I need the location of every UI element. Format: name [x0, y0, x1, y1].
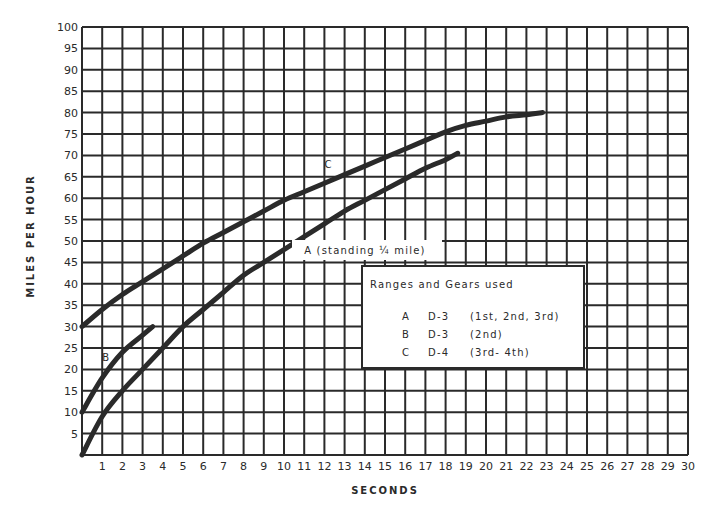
- x-tick-label: 1: [99, 460, 106, 473]
- y-tick-label: 55: [64, 214, 78, 227]
- legend-title: Ranges and Gears used: [370, 279, 514, 290]
- x-tick-label: 17: [418, 460, 432, 473]
- x-tick-label: 27: [620, 460, 634, 473]
- y-tick-label: 25: [64, 342, 78, 355]
- y-tick-label: 100: [57, 21, 78, 34]
- x-tick-label: 29: [661, 460, 675, 473]
- y-tick-label: 20: [64, 363, 78, 376]
- y-tick-label: 85: [64, 85, 78, 98]
- x-tick-label: 15: [378, 460, 392, 473]
- acceleration-chart: 5101520253035404550556065707580859095100…: [0, 0, 724, 520]
- x-tick-label: 14: [358, 460, 372, 473]
- x-tick-label: 18: [439, 460, 453, 473]
- curve-label: A (standing ¼ mile): [304, 245, 426, 256]
- legend-entry-gears: (2nd): [470, 329, 503, 340]
- x-tick-label: 3: [139, 460, 146, 473]
- y-tick-label: 10: [64, 406, 78, 419]
- x-tick-label: 11: [297, 460, 311, 473]
- x-tick-label: 2: [119, 460, 126, 473]
- x-tick-label: 7: [220, 460, 227, 473]
- curve-label: B: [102, 352, 110, 363]
- y-axis-ticks: 5101520253035404550556065707580859095100: [57, 21, 78, 441]
- y-tick-label: 5: [71, 428, 78, 441]
- legend-entry-range: D-3: [428, 329, 449, 340]
- x-tick-label: 9: [260, 460, 267, 473]
- x-tick-label: 20: [479, 460, 493, 473]
- legend: Ranges and Gears usedAD-3(1st, 2nd, 3rd)…: [362, 266, 584, 368]
- x-tick-label: 10: [277, 460, 291, 473]
- y-tick-label: 60: [64, 192, 78, 205]
- legend-entry-range: D-4: [428, 347, 449, 358]
- y-axis-title: MILES PER HOUR: [25, 174, 36, 298]
- y-tick-label: 65: [64, 171, 78, 184]
- y-tick-label: 90: [64, 64, 78, 77]
- y-tick-label: 95: [64, 42, 78, 55]
- x-tick-label: 13: [338, 460, 352, 473]
- y-tick-label: 40: [64, 278, 78, 291]
- x-tick-label: 24: [560, 460, 574, 473]
- legend-entry-key: B: [402, 329, 410, 340]
- x-tick-label: 16: [398, 460, 412, 473]
- y-tick-label: 70: [64, 149, 78, 162]
- legend-entry-gears: (3rd- 4th): [470, 347, 530, 358]
- legend-entry-key: C: [402, 347, 410, 358]
- y-tick-label: 35: [64, 299, 78, 312]
- x-tick-label: 5: [180, 460, 187, 473]
- y-tick-label: 45: [64, 256, 78, 269]
- x-tick-label: 25: [580, 460, 594, 473]
- x-tick-label: 21: [499, 460, 513, 473]
- y-tick-label: 80: [64, 107, 78, 120]
- y-tick-label: 30: [64, 321, 78, 334]
- x-tick-label: 4: [159, 460, 166, 473]
- x-tick-label: 28: [641, 460, 655, 473]
- x-tick-label: 30: [681, 460, 695, 473]
- x-tick-label: 6: [200, 460, 207, 473]
- x-tick-label: 8: [240, 460, 247, 473]
- legend-entry-key: A: [402, 311, 410, 322]
- x-axis-title: SECONDS: [351, 485, 419, 496]
- y-tick-label: 75: [64, 128, 78, 141]
- legend-entry-range: D-3: [428, 311, 449, 322]
- y-tick-label: 50: [64, 235, 78, 248]
- legend-entry-gears: (1st, 2nd, 3rd): [470, 311, 560, 322]
- x-tick-label: 22: [519, 460, 533, 473]
- y-tick-label: 15: [64, 385, 78, 398]
- x-tick-label: 26: [600, 460, 614, 473]
- curve-label: C: [324, 159, 332, 170]
- x-tick-label: 19: [459, 460, 473, 473]
- x-axis-ticks: 1234567891011121314151617181920212223242…: [99, 460, 695, 473]
- x-tick-label: 12: [317, 460, 331, 473]
- x-tick-label: 23: [540, 460, 554, 473]
